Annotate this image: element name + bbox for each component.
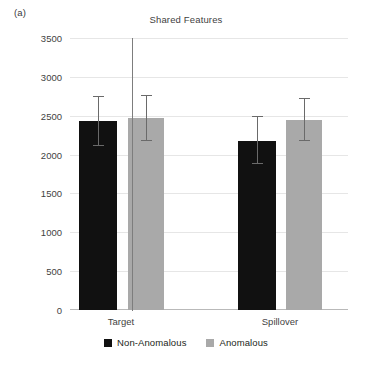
legend-entry-non-anomalous: Non-Anomalous xyxy=(104,337,186,348)
errorbar-target-non-anomalous xyxy=(98,97,99,146)
y-tick-label-2500: 2500 xyxy=(0,110,62,121)
legend-entry-anomalous: Anomalous xyxy=(206,337,267,348)
chart-title: Shared Features xyxy=(0,14,372,25)
errorbar-cap-top-target-non-anomalous xyxy=(93,96,104,97)
legend-swatch-non-anomalous xyxy=(104,339,112,347)
x-tick-label-target: Target xyxy=(108,316,134,327)
figure-panel: (a) Shared Features 0 500 1000 1500 2000… xyxy=(0,0,372,365)
bar-spillover-non-anomalous xyxy=(238,141,276,310)
errorbar-cap-bottom-target-anomalous xyxy=(141,140,152,141)
y-tick-label-1500: 1500 xyxy=(0,188,62,199)
y-tick-label-0: 0 xyxy=(0,305,62,316)
x-tick-label-spillover: Spillover xyxy=(262,316,298,327)
errorbar-cap-top-spillover-anomalous xyxy=(299,98,310,99)
plot-area xyxy=(70,38,348,310)
errorbar-spillover-anomalous xyxy=(304,99,305,142)
y-tick-label-3000: 3000 xyxy=(0,71,62,82)
errorbar-cap-top-spillover-non-anomalous xyxy=(252,116,263,117)
group-divider xyxy=(132,38,133,311)
errorbar-spillover-non-anomalous xyxy=(257,117,258,164)
errorbar-cap-top-target-anomalous xyxy=(141,95,152,96)
bar-target-anomalous xyxy=(128,118,164,310)
gridline-2500 xyxy=(70,116,348,117)
gridline-3000 xyxy=(70,77,348,78)
y-tick-label-1000: 1000 xyxy=(0,227,62,238)
errorbar-cap-bottom-spillover-non-anomalous xyxy=(252,163,263,164)
legend-label-anomalous: Anomalous xyxy=(219,337,267,348)
y-tick-label-3500: 3500 xyxy=(0,33,62,44)
y-tick-label-2000: 2000 xyxy=(0,149,62,160)
gridline-3500 xyxy=(70,38,348,39)
legend-swatch-anomalous xyxy=(206,339,214,347)
errorbar-cap-bottom-target-non-anomalous xyxy=(93,145,104,146)
errorbar-target-anomalous xyxy=(146,96,147,141)
y-tick-label-500: 500 xyxy=(0,266,62,277)
y-axis: 0 500 1000 1500 2000 2500 3000 3500 xyxy=(0,38,62,310)
bar-target-non-anomalous xyxy=(79,121,117,310)
errorbar-cap-bottom-spillover-anomalous xyxy=(299,140,310,141)
legend: Non-Anomalous Anomalous xyxy=(0,337,372,348)
bar-spillover-anomalous xyxy=(286,120,322,310)
legend-label-non-anomalous: Non-Anomalous xyxy=(117,337,186,348)
